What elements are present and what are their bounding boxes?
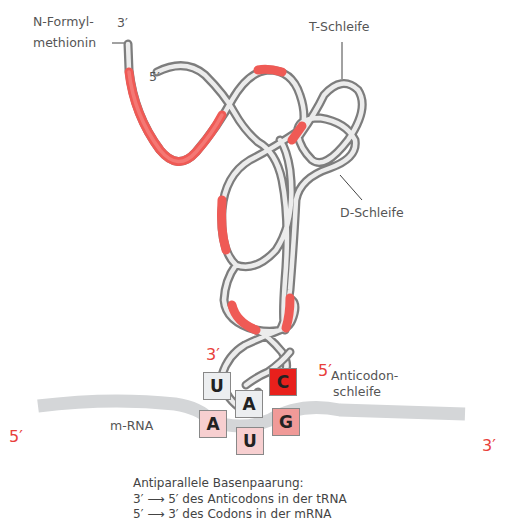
trna-strand <box>128 44 362 409</box>
mrna-label: m-RNA <box>110 418 153 434</box>
anticodon-base-a: A <box>235 390 263 418</box>
mrna-3-prime: 3′ <box>482 437 496 455</box>
n-formyl-label-line1: N-Formyl- <box>33 14 94 30</box>
red-segments <box>129 69 302 330</box>
anticodon-base-u: U <box>203 372 231 400</box>
codon-base-g: G <box>272 408 300 436</box>
caption-line2: 5′ ⟶ 3′ des Codons in der mRNA <box>133 507 347 523</box>
mrna-5-prime: 5′ <box>9 428 23 446</box>
caption: Antiparallele Basenpaarung: 3′ ⟶ 5′ des … <box>133 476 347 523</box>
caption-line1: 3′ ⟶ 5′ des Anticodons in der tRNA <box>133 492 347 508</box>
anticodon-loop-label-line2: schleife <box>333 384 381 400</box>
codon-base-u: U <box>236 427 264 455</box>
anticodon-base-c: C <box>269 368 297 396</box>
d-loop-label: D-Schleife <box>340 205 404 221</box>
codon-base-a: A <box>199 410 227 438</box>
caption-title: Antiparallele Basenpaarung: <box>133 476 347 492</box>
t-loop-label: T-Schleife <box>309 19 369 35</box>
n-formyl-label-line2: methionin <box>33 35 96 51</box>
trna-5-prime-top: 5′ <box>149 68 160 86</box>
anticodon-3-prime: 3′ <box>206 346 220 364</box>
trna-3-prime-top: 3′ <box>117 14 128 32</box>
anticodon-5-prime: 5′ <box>318 362 332 380</box>
anticodon-loop-label-line1: Anticodon- <box>331 368 398 384</box>
